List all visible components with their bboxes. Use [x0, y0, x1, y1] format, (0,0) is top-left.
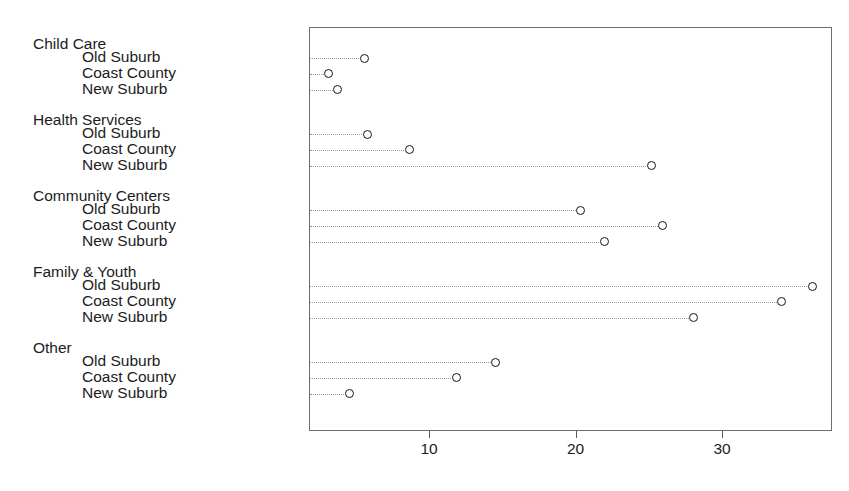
- leader-line: [310, 74, 324, 75]
- x-axis: 102030: [309, 431, 832, 475]
- x-axis-tick-label: 20: [567, 441, 584, 457]
- leader-line: [310, 242, 599, 243]
- data-point: [491, 358, 500, 367]
- row-label: Old Suburb: [82, 277, 160, 293]
- row-label: New Suburb: [82, 385, 167, 401]
- row-label: New Suburb: [82, 157, 167, 173]
- data-point: [360, 54, 369, 63]
- leader-line: [310, 318, 689, 319]
- leader-line: [310, 286, 807, 287]
- data-point: [658, 221, 667, 230]
- leader-line: [310, 394, 344, 395]
- data-point: [363, 130, 372, 139]
- leader-line: [310, 210, 576, 211]
- dot-plot-chart: Child CareOld SuburbCoast CountyNew Subu…: [0, 0, 849, 491]
- data-point: [333, 85, 342, 94]
- leader-line: [310, 150, 404, 151]
- leader-line: [310, 226, 658, 227]
- group-label-other: Other: [33, 340, 72, 356]
- x-axis-tick: [722, 431, 723, 438]
- plot-area: [309, 27, 832, 431]
- x-axis-tick-label: 10: [420, 441, 437, 457]
- data-point: [600, 237, 609, 246]
- row-label: Old Suburb: [82, 353, 160, 369]
- plot-inner: [310, 28, 831, 430]
- row-label: Old Suburb: [82, 49, 160, 65]
- row-label: New Suburb: [82, 309, 167, 325]
- leader-line: [310, 166, 646, 167]
- data-point: [324, 69, 333, 78]
- scan-artifact: [0, 483, 849, 491]
- row-label: New Suburb: [82, 81, 167, 97]
- data-point: [777, 297, 786, 306]
- category-label-column: Child CareOld SuburbCoast CountyNew Subu…: [0, 0, 300, 491]
- row-label: Old Suburb: [82, 125, 160, 141]
- x-axis-tick-label: 30: [713, 441, 730, 457]
- data-point: [647, 161, 656, 170]
- leader-line: [310, 302, 777, 303]
- x-axis-tick: [429, 431, 430, 438]
- row-label: Coast County: [82, 141, 176, 157]
- leader-line: [310, 378, 451, 379]
- data-point: [576, 206, 585, 215]
- x-axis-tick: [576, 431, 577, 438]
- data-point: [345, 389, 354, 398]
- data-point: [689, 313, 698, 322]
- row-label: Old Suburb: [82, 201, 160, 217]
- row-label: Coast County: [82, 369, 176, 385]
- leader-line: [310, 58, 359, 59]
- data-point: [808, 282, 817, 291]
- row-label: New Suburb: [82, 233, 167, 249]
- leader-line: [310, 362, 491, 363]
- row-label: Coast County: [82, 217, 176, 233]
- leader-line: [310, 134, 362, 135]
- row-label: Coast County: [82, 293, 176, 309]
- row-label: Coast County: [82, 65, 176, 81]
- data-point: [452, 373, 461, 382]
- data-point: [405, 145, 414, 154]
- leader-line: [310, 90, 333, 91]
